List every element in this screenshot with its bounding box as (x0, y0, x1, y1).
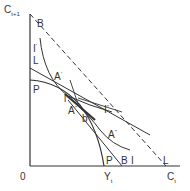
dashed-line-BL (30, 14, 166, 166)
x-axis-label: Ct (167, 171, 176, 184)
origin-label: 0 (20, 171, 26, 182)
label-L-left: L (33, 55, 39, 66)
intertemporal-choice-diagram: Ct+1 Ct 0 Yt B I' L P A' l A" b I" A" I … (0, 0, 190, 191)
label-A-prime: A' (54, 71, 62, 82)
label-l-small: l (64, 93, 66, 104)
label-B-bottom: B (121, 155, 128, 166)
label-I-dbl: I" (104, 104, 109, 115)
yt-label: Yt (104, 171, 113, 184)
label-L-bottom: L (163, 155, 169, 166)
label-I-right: I (131, 155, 134, 166)
label-P-bottom: P (106, 155, 113, 166)
y-axis-label: Ct+1 (4, 4, 20, 17)
label-P-left: P (33, 84, 40, 95)
production-frontier-PP (30, 80, 104, 166)
label-b-small: b (82, 113, 88, 124)
label-A-triple: A" (108, 129, 117, 140)
label-I-prime: I' (33, 43, 37, 54)
label-B-top: B (37, 18, 44, 29)
label-A-dblprime: A" (68, 105, 77, 116)
